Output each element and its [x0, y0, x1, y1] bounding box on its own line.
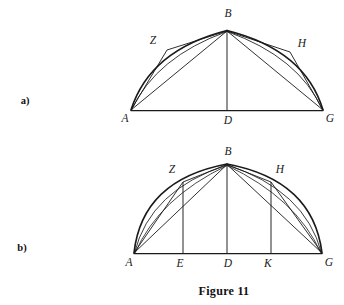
panel-b-point-label-B: B — [224, 146, 231, 158]
panel-b-chord-AZ — [134, 182, 183, 253]
panel-a-point-label-Z: Z — [150, 35, 157, 47]
panel-b-label: b) — [17, 243, 26, 254]
panel-b-point-label-G: G — [325, 257, 334, 269]
panel-b-point-label-D: D — [224, 258, 233, 270]
geometry-canvas — [0, 0, 344, 305]
figure-caption: Figure 11 — [199, 285, 250, 297]
panel-b-point-label-K: K — [264, 258, 272, 270]
panel-a-point-label-B: B — [224, 8, 231, 20]
panel-a-chord-AZ — [131, 50, 167, 110]
panel-a-point-label-A: A — [121, 113, 128, 125]
panel-b-point-label-E: E — [176, 258, 183, 270]
panel-b-chord-BH — [227, 165, 271, 183]
panel-a-chord-BH — [227, 31, 290, 52]
panel-a-point-label-D: D — [224, 115, 233, 127]
panel-b-chord-ZB — [183, 165, 227, 183]
panel-b-linework — [134, 164, 322, 254]
panel-a-chord-AB — [131, 31, 227, 110]
panel-b-chord-HG — [271, 182, 322, 253]
figure-sheet: a) A G B D Z H b) A G B D Z H E K Figure… — [0, 0, 344, 305]
panel-b-chord-BG — [227, 165, 322, 254]
panel-b-point-label-Z: Z — [169, 164, 176, 176]
panel-a-chord-ZB — [167, 31, 227, 50]
panel-b-point-label-A: A — [125, 257, 132, 269]
panel-b-chord-AB — [134, 165, 227, 254]
panel-a-label: a) — [21, 96, 30, 107]
panel-a-chord-BG — [227, 31, 323, 110]
panel-a-linework — [131, 31, 323, 111]
panel-b-point-label-H: H — [276, 164, 285, 176]
panel-a-chord-HG — [290, 52, 323, 110]
panel-a-point-label-G: G — [326, 113, 335, 125]
panel-a-point-label-H: H — [298, 38, 307, 50]
